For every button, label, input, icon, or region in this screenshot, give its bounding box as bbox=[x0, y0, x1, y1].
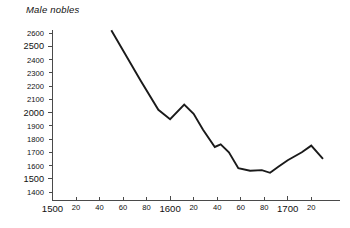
x-axis-tick-label: 20 bbox=[189, 203, 197, 212]
x-axis-tick-label: 80 bbox=[260, 203, 268, 212]
x-axis-tick-label: 20 bbox=[72, 203, 80, 212]
y-axis-tick-label: 2500 bbox=[0, 41, 44, 51]
y-axis-tick-label: 1700 bbox=[0, 148, 44, 157]
y-axis-tick-label: 1400 bbox=[0, 188, 44, 197]
x-axis-tick-label: 80 bbox=[142, 203, 150, 212]
x-axis-tick-label: 40 bbox=[95, 203, 103, 212]
y-axis bbox=[48, 30, 53, 201]
x-axis-tick-label: 1600 bbox=[159, 203, 180, 214]
x-axis-ticks bbox=[53, 196, 312, 201]
x-axis-tick-label: 60 bbox=[236, 203, 244, 212]
chart-root: Male nobles 2600250024002300220021002000… bbox=[0, 0, 350, 228]
y-axis-ticks bbox=[48, 33, 53, 192]
y-axis-tick-label: 2300 bbox=[0, 68, 44, 77]
y-axis-tick-label: 1600 bbox=[0, 161, 44, 170]
x-axis-tick-label: 20 bbox=[307, 203, 315, 212]
y-axis-tick-label: 1500 bbox=[0, 174, 44, 184]
x-axis-tick-label: 1500 bbox=[42, 203, 63, 214]
x-axis-tick-label: 40 bbox=[213, 203, 221, 212]
y-axis-tick-label: 2000 bbox=[0, 108, 44, 118]
x-axis-tick-label: 60 bbox=[119, 203, 127, 212]
x-axis-tick-label: 1700 bbox=[277, 203, 298, 214]
chart-svg bbox=[0, 0, 350, 228]
y-axis-tick-label: 1800 bbox=[0, 135, 44, 144]
y-axis-tick-label: 2600 bbox=[0, 29, 44, 38]
y-axis-tick-label: 1900 bbox=[0, 121, 44, 130]
y-axis-tick-label: 2200 bbox=[0, 82, 44, 91]
x-axis bbox=[53, 196, 341, 201]
y-axis-tick-label: 2100 bbox=[0, 95, 44, 104]
chart-plot-area: 2600250024002300220021002000190018001700… bbox=[0, 0, 350, 228]
y-axis-tick-label: 2400 bbox=[0, 55, 44, 64]
data-series-line bbox=[111, 30, 323, 172]
